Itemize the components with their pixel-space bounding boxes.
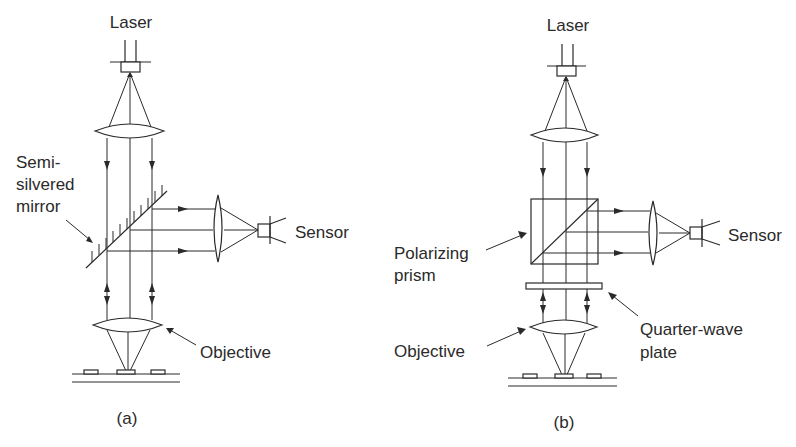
objective-lens-icon-a (93, 318, 162, 332)
quarter-wave-plate-icon (526, 283, 602, 289)
focus-cone-a (107, 330, 150, 373)
laser-icon-a (110, 40, 151, 72)
prism-label-line1: Polarizing (394, 244, 469, 263)
sensor-lens-icon-b (649, 201, 657, 265)
disc-surface-a (72, 370, 180, 382)
mirror-label-line3: mirror (16, 197, 61, 216)
reflected-beams-b (543, 208, 650, 256)
objective-leader-arrow-a (166, 328, 196, 345)
focus-cone-b (543, 333, 585, 377)
objective-leader-arrow-b (487, 327, 526, 346)
objective-label-b: Objective (394, 342, 465, 361)
sensor-label-b: Sensor (728, 226, 782, 245)
mirror-leader-arrow (66, 220, 93, 243)
laser-label-a: Laser (110, 13, 153, 32)
semi-silvered-mirror-icon (86, 185, 167, 268)
laser-cone-a (109, 72, 151, 127)
plate-label-line2: plate (640, 343, 677, 362)
sensor-label-a: Sensor (295, 223, 349, 242)
plate-label-line1: Quarter-wave (640, 320, 743, 339)
laser-label-b: Laser (547, 16, 590, 35)
return-arrows-b (540, 292, 590, 314)
laser-cone-b (545, 76, 587, 131)
optical-pickup-figure: Laser (0, 0, 796, 447)
mirror-label-line2: silvered (16, 175, 75, 194)
collimating-lens-icon-b (531, 128, 598, 142)
panel-a: Laser (16, 13, 349, 428)
objective-label-a: Objective (200, 343, 271, 362)
sensor-lens-icon-a (214, 195, 222, 262)
collimating-lens-icon-a (95, 124, 164, 138)
sensor-cone-b (656, 213, 690, 253)
collimated-beams-a (104, 138, 155, 320)
panel-b-caption: (b) (554, 413, 575, 432)
laser-icon-b (547, 44, 586, 76)
mirror-label-line1: Semi- (16, 153, 60, 172)
sensor-cone-a (221, 208, 258, 252)
panel-b: Laser (394, 16, 782, 432)
sensor-icon-a (258, 216, 286, 244)
prism-label-line2: prism (394, 266, 436, 285)
sensor-icon-b (690, 219, 720, 247)
prism-leader-arrow (486, 231, 527, 250)
panel-a-caption: (a) (117, 409, 138, 428)
plate-leader-arrow (608, 292, 638, 316)
disc-surface-b (508, 374, 617, 386)
reflected-beams-a (107, 206, 215, 254)
